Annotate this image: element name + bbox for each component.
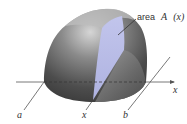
line-a [24,82,44,110]
point-x-label: x [81,109,87,120]
annotation-label: area A (x) [137,6,185,23]
point-b-label: b [123,109,128,120]
solid-cross-section-diagram: area A (x) x a x b [0,0,187,124]
x-axis-label: x [172,84,178,95]
point-a-label: a [17,109,22,120]
